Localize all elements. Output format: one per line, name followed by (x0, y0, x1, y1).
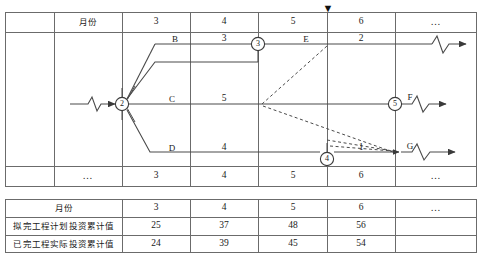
node-5-label: 5 (393, 100, 397, 108)
entry-wave-path (70, 97, 115, 111)
network-footer-more: … (431, 171, 442, 181)
activity-b-label: B (172, 35, 178, 44)
header-month-3: 3 (154, 17, 159, 27)
activity-1-duration: 1 (359, 143, 364, 153)
network-footer-5: 5 (291, 171, 296, 181)
table-row-actual-v3: 24 (151, 239, 161, 249)
dashed-link-junction-to-E (262, 46, 327, 104)
header-month-label: 月份 (79, 18, 97, 27)
table-header-3: 3 (154, 203, 159, 213)
node-3-label: 3 (256, 40, 260, 48)
activity-f-label: F (407, 93, 412, 102)
header-month-6: 6 (359, 17, 364, 27)
activity-d-label: D (169, 144, 176, 153)
header-month-more: … (431, 17, 442, 27)
activity-g-label: G (407, 142, 414, 151)
table-row-actual-label: 已完工程实际投资累计值 (13, 240, 114, 249)
activity-e-label: E (303, 35, 309, 44)
activity-c-label: C (169, 95, 175, 104)
header-month-4: 4 (222, 17, 227, 27)
table-header-more: … (431, 203, 442, 213)
table-header-5: 5 (291, 203, 296, 213)
table-row-actual-v6: 54 (356, 239, 366, 249)
activity-e-duration: 2 (359, 34, 364, 44)
network-footer-6: 6 (359, 171, 364, 181)
activity-e-wave (432, 36, 466, 53)
table-header-6: 6 (359, 203, 364, 213)
activity-c-duration: 5 (222, 94, 227, 104)
table-row-planned-v5: 48 (288, 221, 298, 231)
node-4-label: 4 (325, 155, 329, 163)
activity-b-path (127, 62, 258, 99)
network-footer-4: 4 (222, 171, 227, 181)
table-row-planned-v4: 37 (219, 221, 229, 231)
table-row-actual-v4: 39 (219, 239, 229, 249)
header-month-5: 5 (291, 17, 296, 27)
network-grid (6, 13, 477, 187)
diagram-canvas: 月份 3 4 5 6 … ▼ 2 3 5 4 B 3 E 2 C 5 F D 4… (0, 0, 482, 259)
activity-b-riser (127, 44, 155, 99)
table-header-4: 4 (222, 203, 227, 213)
activity-b-duration: 3 (222, 34, 227, 44)
table-row-planned-v6: 56 (356, 221, 366, 231)
table-header-month: 月份 (55, 204, 73, 213)
current-time-marker-icon: ▼ (323, 3, 334, 14)
table-row-planned-v3: 25 (151, 221, 161, 231)
network-footer-ellipsis: … (83, 171, 94, 181)
table-row-actual-v5: 45 (288, 239, 298, 249)
activity-d-duration: 4 (222, 143, 227, 153)
table-row-planned-label: 拟完工程计划投资累计值 (13, 222, 114, 231)
node-2-label: 2 (120, 100, 124, 108)
network-footer-3: 3 (154, 171, 159, 181)
